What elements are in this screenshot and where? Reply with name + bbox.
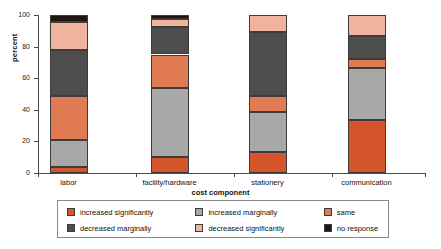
x-axis-label: facility/hardware bbox=[120, 178, 220, 187]
bar-labor[interactable] bbox=[50, 15, 88, 173]
legend-swatch-icon bbox=[67, 208, 75, 216]
bar-segment[interactable] bbox=[249, 152, 287, 173]
bar-segment[interactable] bbox=[151, 27, 189, 55]
plot-area: percent 020406080100 laborfacility/hardw… bbox=[0, 0, 441, 195]
legend-label: decreased significantly bbox=[208, 224, 284, 233]
bar-segment[interactable] bbox=[50, 22, 88, 50]
legend-label: no response bbox=[337, 224, 378, 233]
bar-segment[interactable] bbox=[348, 120, 386, 173]
x-tick-mark bbox=[234, 173, 235, 177]
legend-item[interactable]: same bbox=[324, 205, 390, 219]
x-tick-mark bbox=[332, 173, 333, 177]
legend-swatch-icon bbox=[195, 224, 203, 232]
legend-swatch-icon bbox=[324, 224, 332, 232]
bar-communication[interactable] bbox=[348, 15, 386, 173]
legend-item[interactable]: no response bbox=[324, 221, 390, 235]
chart-legend: increased significantlyincreased margina… bbox=[57, 200, 389, 238]
x-axis-label: stationery bbox=[218, 178, 318, 187]
x-tick-mark bbox=[136, 173, 137, 177]
legend-item[interactable]: decreased marginally bbox=[58, 221, 195, 235]
bar-segment[interactable] bbox=[249, 96, 287, 113]
legend-row: increased significantlyincreased margina… bbox=[58, 205, 390, 219]
legend-label: same bbox=[337, 208, 355, 217]
bar-segment[interactable] bbox=[348, 15, 386, 36]
bar-segment[interactable] bbox=[50, 96, 88, 140]
bar-segment[interactable] bbox=[348, 59, 386, 68]
bar-segment[interactable] bbox=[249, 112, 287, 152]
bar-segment[interactable] bbox=[50, 15, 88, 22]
bar-segment[interactable] bbox=[50, 140, 88, 168]
bar-segment[interactable] bbox=[249, 32, 287, 95]
bar-stationery[interactable] bbox=[249, 15, 287, 173]
bar-segment[interactable] bbox=[151, 15, 189, 19]
legend-item[interactable]: decreased significantly bbox=[195, 221, 323, 235]
bar-segment[interactable] bbox=[348, 68, 386, 120]
legend-label: decreased marginally bbox=[80, 224, 151, 233]
legend-swatch-icon bbox=[324, 208, 332, 216]
legend-item[interactable]: increased significantly bbox=[58, 205, 195, 219]
bar-segment[interactable] bbox=[151, 157, 189, 173]
x-axis-title: cost component bbox=[0, 188, 441, 197]
legend-swatch-icon bbox=[195, 208, 203, 216]
bar-segment[interactable] bbox=[151, 19, 189, 27]
legend-swatch-icon bbox=[67, 224, 75, 232]
x-tick-mark bbox=[38, 173, 39, 177]
bar-segment[interactable] bbox=[151, 88, 189, 158]
bar-segment[interactable] bbox=[348, 36, 386, 60]
x-axis-label: communication bbox=[317, 178, 417, 187]
x-axis-label: labor bbox=[19, 178, 119, 187]
legend-label: increased marginally bbox=[208, 208, 277, 217]
bar-facility-hardware[interactable] bbox=[151, 15, 189, 173]
bar-segment[interactable] bbox=[50, 167, 88, 173]
legend-item[interactable]: increased marginally bbox=[195, 205, 323, 219]
x-tick-mark bbox=[425, 173, 426, 177]
legend-row: decreased marginallydecreased significan… bbox=[58, 221, 390, 235]
legend-label: increased significantly bbox=[80, 208, 153, 217]
stacked-bar-chart: percent 020406080100 laborfacility/hardw… bbox=[0, 0, 441, 249]
bar-segment[interactable] bbox=[249, 15, 287, 32]
x-axis-line bbox=[38, 173, 425, 174]
bars-layer bbox=[0, 15, 441, 173]
bar-segment[interactable] bbox=[50, 50, 88, 96]
bar-segment[interactable] bbox=[151, 55, 189, 88]
